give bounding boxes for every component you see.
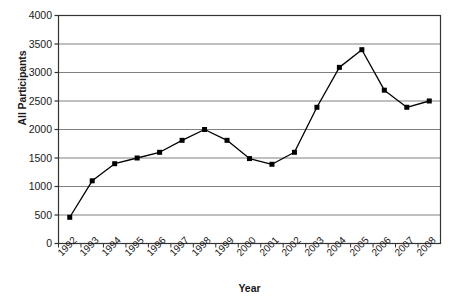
x-tick-label: 2003 bbox=[303, 235, 326, 258]
x-axis-tick-labels: 1992199319941995199619971998199920002001… bbox=[0, 0, 454, 303]
x-tick-label: 2008 bbox=[415, 235, 438, 258]
x-axis-title: Year bbox=[58, 282, 441, 294]
x-tick-label: 1999 bbox=[213, 235, 236, 258]
x-tick-label: 1996 bbox=[145, 235, 168, 258]
x-tick-label: 2000 bbox=[235, 235, 258, 258]
x-tick-label: 2002 bbox=[280, 235, 303, 258]
chart-container: All Participants 05001000150020002500300… bbox=[0, 0, 454, 303]
x-tick-label: 2006 bbox=[370, 235, 393, 258]
x-tick-label: 1997 bbox=[168, 235, 191, 258]
x-tick-label: 2005 bbox=[348, 235, 371, 258]
x-tick-label: 2004 bbox=[325, 235, 348, 258]
x-tick-label: 1998 bbox=[190, 235, 213, 258]
x-tick-label: 1994 bbox=[100, 235, 123, 258]
x-tick-label: 2007 bbox=[393, 235, 416, 258]
x-tick-label: 1995 bbox=[123, 235, 146, 258]
x-tick-label: 1993 bbox=[78, 235, 101, 258]
x-tick-label: 1992 bbox=[56, 235, 79, 258]
x-tick-label: 2001 bbox=[258, 235, 281, 258]
